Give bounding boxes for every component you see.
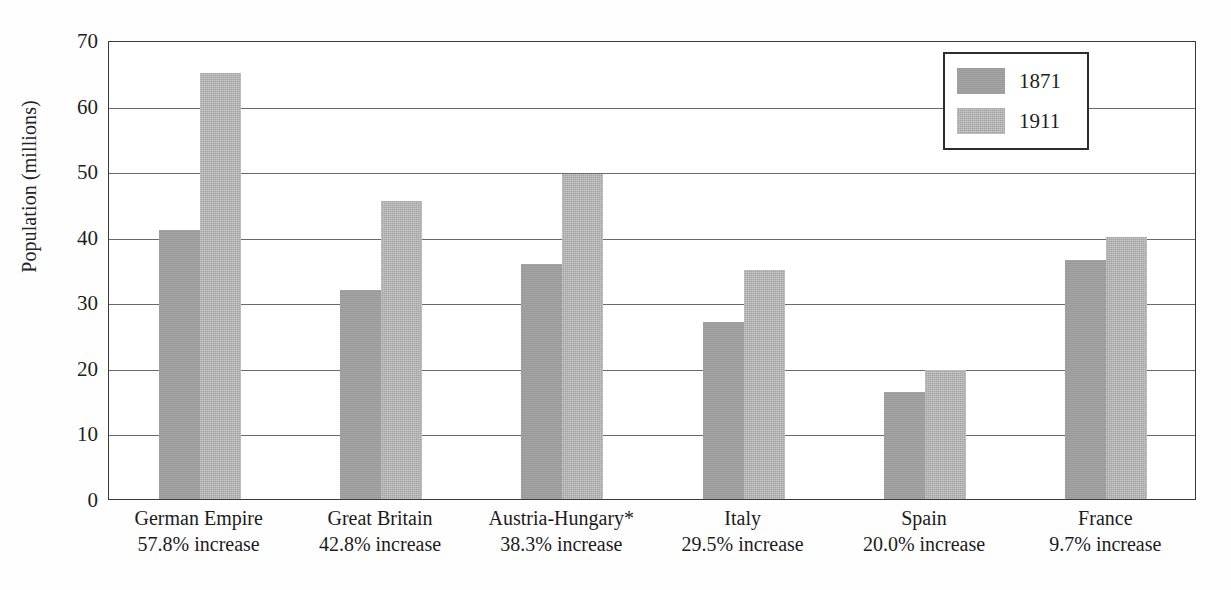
y-tick-label: 10 xyxy=(38,422,98,447)
legend: 1871 1911 xyxy=(943,52,1089,150)
x-group-name: Austria-Hungary* xyxy=(471,506,652,532)
legend-label-1871: 1871 xyxy=(1019,69,1061,94)
x-group-label: German Empire57.8% increase xyxy=(108,506,289,557)
legend-item-1911: 1911 xyxy=(957,108,1060,134)
x-group-percent-increase: 42.8% increase xyxy=(289,532,470,558)
x-group-percent-increase: 20.0% increase xyxy=(833,532,1014,558)
x-group-name: Italy xyxy=(652,506,833,532)
legend-swatch-1871 xyxy=(957,68,1005,94)
bar-1871-france xyxy=(1065,260,1106,499)
legend-swatch-1911 xyxy=(957,108,1005,134)
gridline xyxy=(109,370,1195,371)
bar-1911-france xyxy=(1106,237,1147,499)
bar-1911-spain xyxy=(925,370,966,499)
bar-1911-greatbritain xyxy=(381,201,422,499)
y-tick-label: 50 xyxy=(38,160,98,185)
y-tick-label: 70 xyxy=(38,29,98,54)
bar-1871-italy xyxy=(703,322,744,499)
y-tick-label: 0 xyxy=(38,488,98,513)
y-tick-label: 60 xyxy=(38,94,98,119)
x-group-label: Austria-Hungary*38.3% increase xyxy=(471,506,652,557)
bar-1911-italy xyxy=(744,270,785,500)
gridline xyxy=(109,239,1195,240)
bar-1911-germanempire xyxy=(200,73,241,499)
x-group-label: Italy29.5% increase xyxy=(652,506,833,557)
x-group-name: Great Britain xyxy=(289,506,470,532)
bar-1871-germanempire xyxy=(159,230,200,499)
bar-1911-austriahungary xyxy=(562,174,603,499)
x-group-percent-increase: 29.5% increase xyxy=(652,532,833,558)
bar-1871-austriahungary xyxy=(521,264,562,499)
x-group-name: France xyxy=(1015,506,1196,532)
y-tick-label: 20 xyxy=(38,356,98,381)
legend-label-1911: 1911 xyxy=(1019,109,1060,134)
gridline xyxy=(109,435,1195,436)
y-tick-label: 30 xyxy=(38,291,98,316)
x-group-name: Spain xyxy=(833,506,1014,532)
x-group-label: France9.7% increase xyxy=(1015,506,1196,557)
bar-1871-spain xyxy=(884,392,925,499)
x-group-percent-increase: 9.7% increase xyxy=(1015,532,1196,558)
x-group-label: Spain20.0% increase xyxy=(833,506,1014,557)
legend-item-1871: 1871 xyxy=(957,68,1061,94)
y-tick-label: 40 xyxy=(38,225,98,250)
x-group-percent-increase: 38.3% increase xyxy=(471,532,652,558)
x-group-percent-increase: 57.8% increase xyxy=(108,532,289,558)
bar-chart-figure: Population (millions) 010203040506070 Ge… xyxy=(0,0,1231,590)
x-group-name: German Empire xyxy=(108,506,289,532)
x-group-label: Great Britain42.8% increase xyxy=(289,506,470,557)
gridline xyxy=(109,304,1195,305)
gridline xyxy=(109,173,1195,174)
bar-1871-greatbritain xyxy=(340,290,381,499)
